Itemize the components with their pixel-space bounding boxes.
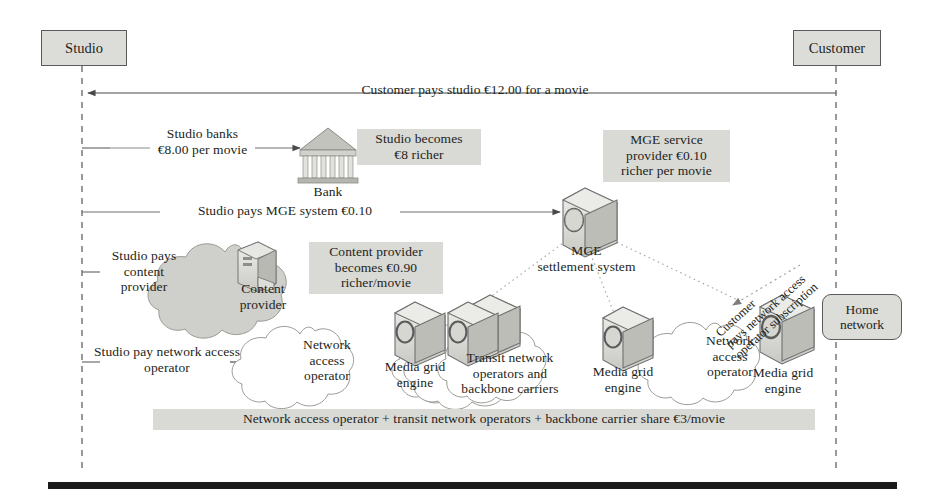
- callout-mge-service-provider-richer: MGE service provider €0.10 richer per mo…: [603, 130, 730, 182]
- node-label-media-grid-engine-2: Media grid engine: [580, 364, 666, 395]
- callout-network-share: Network access operator + transit networ…: [153, 409, 815, 430]
- icon-bank-building: [298, 128, 358, 183]
- flow-label-studio-pays-mge: Studio pays MGE system €0.10: [165, 203, 405, 219]
- callout-content-provider-richer: Content provider becomes €0.90 richer/mo…: [309, 242, 443, 294]
- flow-label-customer-pays-studio: Customer pays studio €12.00 for a movie: [310, 82, 640, 98]
- node-label-bank: Bank: [298, 184, 358, 200]
- callout-studio-becomes-richer: Studio becomes €8 richer: [357, 129, 481, 165]
- studio-box[interactable]: Studio: [41, 30, 127, 66]
- customer-label: Customer: [809, 40, 865, 56]
- studio-label: Studio: [65, 40, 103, 56]
- home-network-label: Home network: [823, 302, 901, 333]
- icon-media-grid-engine-2: [603, 307, 653, 371]
- customer-box[interactable]: Customer: [793, 30, 881, 66]
- flow-label-studio-pay-network-access-operator: Studio pay network access operator: [92, 344, 242, 375]
- node-label-media-grid-engine-1: Media grid engine: [372, 359, 458, 390]
- flow-label-studio-pays-content-provider: Studio pays content provider: [98, 248, 190, 295]
- node-label-network-access-operator-left: Network access operator: [287, 337, 367, 384]
- figure-canvas: Studio Customer Home network Customer pa…: [0, 0, 945, 504]
- bottom-rule: [48, 482, 897, 489]
- flow-label-studio-banks: Studio banks €8.00 per movie: [140, 126, 265, 157]
- home-network-box[interactable]: Home network: [822, 294, 902, 340]
- node-label-mge-settlement-system: MGE settlement system: [519, 243, 654, 274]
- node-label-content-provider: Content provider: [222, 281, 304, 312]
- node-label-media-grid-engine-3: Media grid engine: [740, 365, 826, 396]
- node-label-transit-network: Transit network operators and backbone c…: [439, 350, 581, 397]
- icon-media-grid-engine-1: [395, 302, 445, 366]
